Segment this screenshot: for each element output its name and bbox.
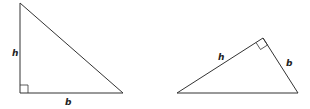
base-label: b	[65, 97, 72, 107]
height-label: h	[218, 52, 224, 62]
right-triangle: h b	[177, 38, 298, 93]
right-angle-marker	[256, 38, 268, 50]
diagram-canvas: h b h b	[0, 0, 310, 109]
right-triangle-shape	[177, 38, 298, 93]
height-label: h	[12, 48, 18, 58]
left-triangle-shape	[20, 3, 123, 93]
base-label: b	[286, 58, 293, 68]
left-triangle: h b	[12, 3, 123, 107]
right-angle-marker	[20, 85, 28, 93]
